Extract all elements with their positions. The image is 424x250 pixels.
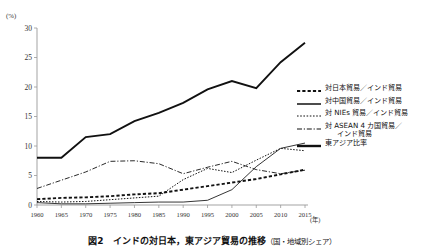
x-axis-unit-label: (年) (310, 215, 320, 224)
figure-caption: 図2 インドの対日本，東アジア貿易の推移（国・地域別シェア） (0, 229, 424, 248)
caption-sub: （国・地域別シェア） (266, 237, 336, 246)
legend-key-solid-thick-icon (296, 141, 322, 150)
y-tick-label: 10 (25, 142, 33, 151)
legend-key-dashed-heavy-icon (296, 86, 322, 95)
caption-main: 図2 インドの対日本，東アジア貿易の推移 (88, 236, 265, 246)
x-tick-label: 1965 (55, 211, 69, 218)
legend-label-asean: 対 ASEAN 4 カ国貿易／ インド貿易 (325, 122, 402, 138)
legend-key-dotted-icon (296, 111, 322, 120)
y-tick-label: 5 (28, 171, 32, 180)
x-tick-label: 1995 (201, 211, 215, 218)
chart-legend: 対日本貿易／インド貿易 対中国貿易／インド貿易 対 NIEs 貿易／インド貿易 … (296, 84, 424, 152)
series-line (37, 143, 305, 204)
legend-item-east-asia: 東アジア比率 (296, 139, 424, 150)
legend-label-east-asia: 東アジア比率 (325, 139, 367, 147)
legend-key-dash-dot-icon (296, 124, 322, 133)
legend-item-japan: 対日本貿易／インド貿易 (296, 84, 424, 95)
x-axis-tick-labels: 1960196519701975198019851990199520002005… (30, 211, 312, 218)
y-tick-label: 15 (25, 112, 33, 121)
y-axis-tick-labels: 051015202530 (25, 24, 33, 210)
series-line (37, 43, 305, 158)
x-tick-label: 1960 (30, 211, 44, 218)
series-line (37, 170, 305, 200)
legend-label-china: 対中国貿易／インド貿易 (325, 97, 402, 105)
x-tick-label: 1985 (152, 211, 166, 218)
legend-key-solid-thin-icon (296, 99, 322, 108)
y-tick-label: 30 (25, 24, 33, 33)
series-line (37, 161, 305, 189)
x-tick-label: 1980 (128, 211, 142, 218)
figure-container: 051015202530 196019651970197519801985199… (0, 0, 424, 250)
legend-label-asean-line2: インド貿易 (325, 130, 402, 138)
legend-label-nies: 対 NIEs 貿易／インド貿易 (325, 109, 408, 117)
x-tick-label: 1990 (177, 211, 191, 218)
y-tick-label: 25 (25, 53, 33, 62)
x-tick-label: 2000 (225, 211, 239, 218)
y-axis-unit-label: (%) (6, 12, 16, 20)
chart-axes (34, 28, 308, 208)
x-tick-label: 2010 (274, 211, 288, 218)
x-tick-label: 1970 (79, 211, 93, 218)
chart-series-lines (37, 43, 305, 204)
y-tick-label: 0 (28, 201, 32, 210)
legend-label-japan: 対日本貿易／インド貿易 (325, 84, 402, 92)
legend-item-china: 対中国貿易／インド貿易 (296, 97, 424, 108)
y-tick-label: 20 (25, 83, 33, 92)
legend-item-asean: 対 ASEAN 4 カ国貿易／ インド貿易 (296, 122, 424, 138)
x-tick-label: 1975 (103, 211, 117, 218)
x-tick-label: 2005 (250, 211, 264, 218)
legend-item-nies: 対 NIEs 貿易／インド貿易 (296, 109, 424, 120)
